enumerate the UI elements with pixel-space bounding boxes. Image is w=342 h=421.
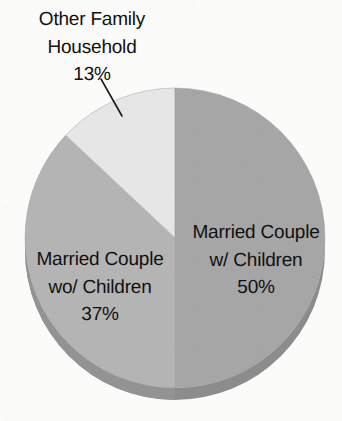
pie-label-married-without-children-line1: Married Couple — [24, 246, 176, 274]
pie-label-married-with-children-value: 50% — [182, 274, 330, 302]
pie-label-married-with-children: Married Couple w/ Children 50% — [182, 219, 330, 302]
pie-chart-figure: Other Family Household 13% Married Coupl… — [0, 0, 342, 421]
pie-label-married-with-children-line1: Married Couple — [182, 219, 330, 247]
pie-label-married-without-children-line2: wo/ Children — [24, 274, 176, 302]
pie-label-married-without-children-value: 37% — [24, 301, 176, 329]
pie-label-other-family-household-line1: Other Family — [7, 6, 177, 34]
pie-label-married-without-children: Married Couple wo/ Children 37% — [24, 246, 176, 329]
pie-label-other-family-household-line2: Household — [7, 34, 177, 62]
pie-label-other-family-household: Other Family Household 13% — [7, 6, 177, 89]
pie-label-married-with-children-line2: w/ Children — [182, 247, 330, 275]
pie-label-other-family-household-value: 13% — [7, 61, 177, 89]
